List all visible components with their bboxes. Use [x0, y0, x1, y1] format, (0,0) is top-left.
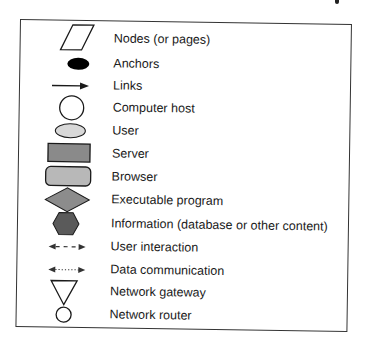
- circle-icon: [40, 96, 110, 119]
- hexagon-icon: [38, 212, 108, 235]
- parallelogram-icon: [41, 25, 111, 48]
- rounded-rectangle-icon: [39, 165, 109, 188]
- page-corner-mark: [335, 0, 339, 4]
- legend-label: Nodes (or pages): [114, 30, 211, 47]
- filled-ellipse-icon: [40, 52, 110, 75]
- legend-label: Computer host: [113, 99, 195, 116]
- legend-item-network-router: Network router: [16, 303, 346, 330]
- legend-label: Executable program: [111, 191, 223, 209]
- legend-label: Browser: [112, 168, 158, 185]
- inverted-triangle-icon: [37, 280, 107, 303]
- legend-box: Nodes (or pages) Anchors Links Computer …: [15, 19, 352, 332]
- legend-label: Network router: [110, 306, 192, 323]
- legend-label: Information (database or other content): [111, 215, 328, 234]
- legend-label: User: [112, 122, 139, 138]
- legend-label: Network gateway: [110, 283, 206, 300]
- legend-label: Data communication: [110, 261, 224, 279]
- legend-label: Anchors: [113, 55, 159, 72]
- legend-label: Server: [112, 145, 149, 162]
- light-ellipse-icon: [39, 119, 109, 142]
- legend-label: User interaction: [111, 238, 199, 255]
- small-circle-icon: [36, 303, 106, 326]
- diamond-icon: [38, 188, 108, 211]
- legend-item-nodes: Nodes (or pages): [21, 25, 351, 52]
- rectangle-icon: [39, 142, 109, 165]
- legend-label: Links: [113, 77, 142, 93]
- dashed-double-arrow-icon: [37, 235, 107, 258]
